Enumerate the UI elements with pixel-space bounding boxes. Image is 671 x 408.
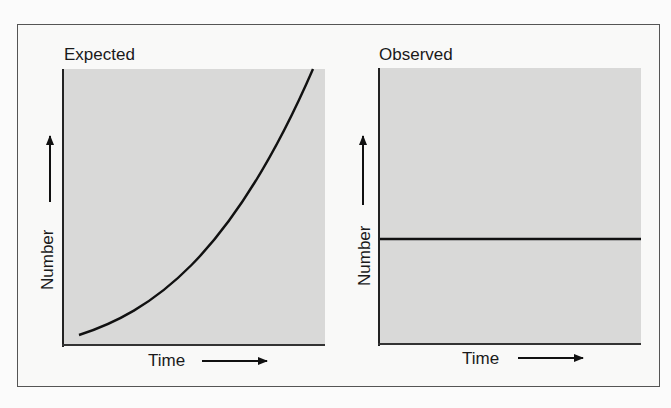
expected-curve (79, 69, 313, 335)
chart-overlay (0, 0, 671, 408)
